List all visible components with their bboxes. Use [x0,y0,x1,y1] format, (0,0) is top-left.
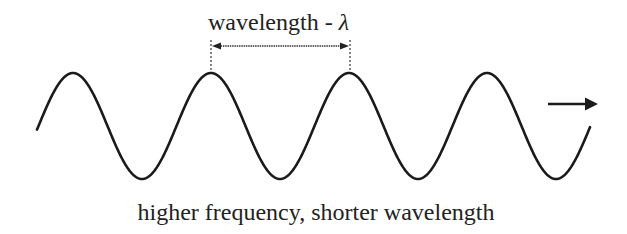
direction-arrow-icon [548,98,598,111]
wave-diagram: wavelength - λ higher frequency, shorter… [0,0,627,234]
wavelength-double-arrow [212,43,349,50]
lambda-symbol: λ [338,9,349,35]
wavelength-label: wavelength - λ [208,9,349,35]
caption: higher frequency, shorter wavelength [138,199,495,225]
sine-wave [37,73,590,179]
